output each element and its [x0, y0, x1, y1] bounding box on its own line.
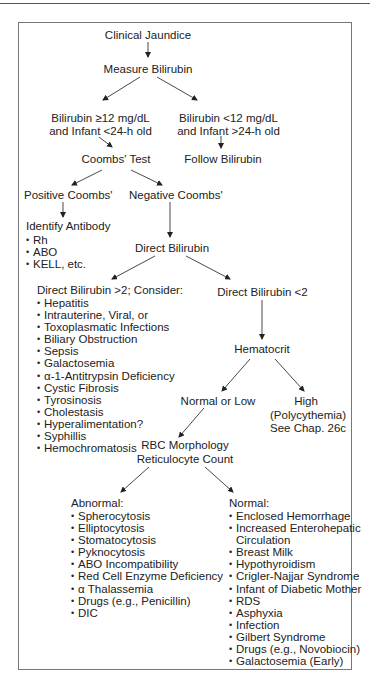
direct-high-list: Hepatitis Intrauterine, Viral, or Toxopl…	[37, 297, 183, 454]
list-item: Intrauterine, Viral, or	[37, 309, 183, 321]
list-item: Breast Milk	[229, 546, 361, 558]
high-line-3: See Chap. 26c	[270, 422, 342, 436]
page-header-cutoff	[0, 0, 370, 4]
list-item: Enclosed Hemorrhage	[229, 510, 361, 522]
node-hematocrit: Hematocrit	[228, 343, 296, 356]
rbc-line-1: RBC Morphology	[130, 438, 240, 452]
node-abnormal: Abnormal: Spherocytosis Elliptocytosis S…	[71, 497, 223, 619]
identify-antibody-heading: Identify Antibody	[26, 220, 110, 233]
list-item: ABO Incompatibility	[71, 558, 223, 570]
node-normal-or-low: Normal or Low	[178, 395, 258, 408]
node-normal: Normal: Enclosed Hemorrhage Increased En…	[229, 497, 361, 667]
list-item: Asphyxia	[229, 607, 361, 619]
list-item: Hepatitis	[37, 297, 183, 309]
list-item: Drugs (e.g., Penicillin)	[71, 595, 223, 607]
high-branch-line-2: and Infant <24-h old	[38, 125, 163, 138]
abnormal-list: Spherocytosis Elliptocytosis Stomatocyto…	[71, 510, 223, 619]
list-item: Stomatocytosis	[71, 534, 223, 546]
abnormal-heading: Abnormal:	[71, 497, 223, 510]
list-item: DIC	[71, 607, 223, 619]
list-item: α-1-Antitrypsin Deficiency	[37, 370, 183, 382]
node-rbc-morphology: RBC Morphology Reticulocyte Count	[130, 438, 240, 466]
list-item: Hypothyroidism	[229, 558, 361, 570]
list-item: Galactosemia	[37, 357, 183, 369]
node-positive-coombs: Positive Coombs'	[24, 189, 112, 202]
list-item: α Thalassemia	[71, 583, 223, 595]
list-item: RDS	[229, 595, 361, 607]
list-item: Hyperalimentation?	[37, 418, 183, 430]
list-item: Cystic Fibrosis	[37, 382, 183, 394]
list-item: Cholestasis	[37, 406, 183, 418]
list-item: Drugs (e.g., Novobiocin)	[229, 643, 361, 655]
node-identify-antibody: Identify Antibody Rh ABO KELL, etc.	[26, 220, 110, 270]
list-item: Rh	[26, 234, 110, 246]
antibody-list: Rh ABO KELL, etc.	[26, 234, 110, 270]
list-item: Pyknocytosis	[71, 546, 223, 558]
low-branch-line-1: Bilirubin <12 mg/dL	[166, 112, 291, 125]
normal-heading: Normal:	[229, 497, 361, 510]
list-item: Spherocytosis	[71, 510, 223, 522]
list-item: Gilbert Syndrome	[229, 631, 361, 643]
node-direct-bilirubin-low: Direct Bilirubin <2	[215, 286, 310, 299]
list-item: Sepsis	[37, 345, 183, 357]
list-item-continuation: Circulation	[229, 534, 361, 546]
node-direct-bilirubin-high: Direct Bilirubin >2; Consider: Hepatitis…	[37, 284, 183, 454]
list-item: Tyrosinosis	[37, 394, 183, 406]
list-item: Toxoplasmatic Infections	[37, 321, 183, 333]
list-item: KELL, etc.	[26, 258, 110, 270]
high-line-1: High	[270, 395, 342, 409]
node-direct-bilirubin: Direct Bilirubin	[127, 242, 217, 255]
header-rule	[0, 3, 370, 4]
list-item: Infection	[229, 619, 361, 631]
node-coombs-test: Coombs' Test	[76, 153, 156, 166]
node-high-polycythemia: High (Polycythemia) See Chap. 26c	[270, 395, 342, 436]
node-negative-coombs: Negative Coombs'	[129, 189, 223, 202]
node-high-bilirubin-branch: Bilirubin ≥12 mg/dL and Infant <24-h old	[38, 112, 163, 138]
node-follow-bilirubin: Follow Bilirubin	[178, 153, 268, 166]
node-measure-bilirubin: Measure Bilirubin	[98, 63, 198, 76]
list-item: ABO	[26, 246, 110, 258]
list-item: Red Cell Enzyme Deficiency	[71, 570, 223, 582]
high-line-2: (Polycythemia)	[270, 409, 342, 423]
high-branch-line-1: Bilirubin ≥12 mg/dL	[38, 112, 163, 125]
list-item: Biliary Obstruction	[37, 333, 183, 345]
node-low-bilirubin-branch: Bilirubin <12 mg/dL and Infant >24-h old	[166, 112, 291, 138]
list-item: Elliptocytosis	[71, 522, 223, 534]
list-item: Infant of Diabetic Mother	[229, 583, 361, 595]
low-branch-line-2: and Infant >24-h old	[166, 125, 291, 138]
list-item: Increased Enterohepatic	[229, 522, 361, 534]
node-clinical-jaundice: Clinical Jaundice	[98, 29, 198, 42]
list-item: Galactosemia (Early)	[229, 655, 361, 667]
rbc-line-2: Reticulocyte Count	[130, 452, 240, 466]
normal-list: Enclosed Hemorrhage Increased Enterohepa…	[229, 510, 361, 667]
list-item: Crigler-Najjar Syndrome	[229, 570, 361, 582]
direct-high-heading: Direct Bilirubin >2; Consider:	[37, 284, 183, 297]
